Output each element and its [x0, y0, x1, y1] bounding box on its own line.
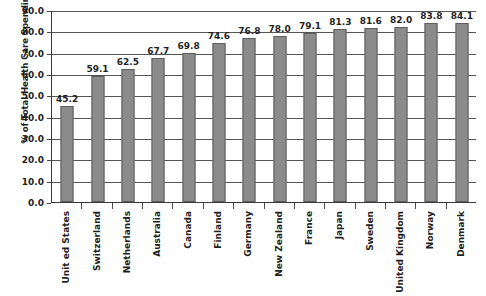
x-tick-mark: [415, 203, 416, 209]
bar[interactable]: [243, 38, 256, 202]
bar-slot: 78.0: [265, 11, 295, 202]
x-label-slot: Netherlands: [112, 203, 142, 296]
bar-slot: 76.8: [234, 11, 264, 202]
x-tick-mark: [446, 203, 447, 209]
y-tick-mark: [47, 160, 51, 161]
bar-value-label: 59.1: [86, 65, 108, 74]
x-label-slot: Sweden: [355, 203, 385, 296]
x-category-label: France: [305, 211, 314, 245]
y-tick-label: 20.0: [8, 156, 44, 165]
x-label-slot: Japan: [324, 203, 354, 296]
bar-value-label: 84.1: [451, 12, 473, 21]
y-tick-label: 70.0: [8, 49, 44, 58]
y-tick-mark: [47, 203, 51, 204]
bar-slot: 84.1: [447, 11, 477, 202]
bar-slot: 82.0: [386, 11, 416, 202]
bar-slot: 79.1: [295, 11, 325, 202]
y-tick-mark: [47, 54, 51, 55]
x-label-slot: Norway: [415, 203, 445, 296]
y-tick-mark: [47, 96, 51, 97]
bar-value-label: 69.8: [177, 42, 199, 51]
x-tick-mark: [324, 203, 325, 209]
bar[interactable]: [455, 23, 468, 202]
y-tick-label: 90.0: [8, 7, 44, 16]
x-label-slot: Denmark: [446, 203, 476, 296]
bar-value-label: 62.5: [117, 58, 139, 67]
y-tick-mark: [47, 182, 51, 183]
x-category-label: Canada: [183, 211, 192, 249]
bar-value-label: 79.1: [299, 22, 321, 31]
x-category-label: Australia: [153, 211, 162, 257]
x-tick-mark: [112, 203, 113, 209]
bar-slot: 81.6: [356, 11, 386, 202]
bar[interactable]: [182, 53, 195, 202]
y-tick-label: 10.0: [8, 177, 44, 186]
bar[interactable]: [425, 23, 438, 202]
x-tick-mark: [264, 203, 265, 209]
bar[interactable]: [395, 27, 408, 202]
y-tick-label: 80.0: [8, 28, 44, 37]
bar-slot: 59.1: [82, 11, 112, 202]
x-tick-mark: [172, 203, 173, 209]
bar-chart: % of Total Health Care Spending 0.010.02…: [0, 0, 486, 296]
y-tick-label: 60.0: [8, 71, 44, 80]
plot-area: 45.259.162.567.769.874.676.878.079.181.3…: [51, 11, 476, 203]
bar-slot: 69.8: [173, 11, 203, 202]
x-category-label: Japan: [335, 211, 344, 239]
y-tick-label: 40.0: [8, 113, 44, 122]
bar-slot: 81.3: [325, 11, 355, 202]
x-label-slot: United Kingdom: [385, 203, 415, 296]
bar[interactable]: [364, 28, 377, 202]
y-tick-label: 0.0: [8, 199, 44, 208]
x-category-label: Switzerland: [92, 211, 101, 271]
bar-value-label: 81.6: [360, 17, 382, 26]
bar[interactable]: [91, 76, 104, 202]
x-tick-mark: [81, 203, 82, 209]
x-category-label: United Kingdom: [396, 211, 405, 293]
x-category-label: Norway: [426, 211, 435, 249]
y-tick-mark: [47, 11, 51, 12]
x-category-label: Denmark: [456, 211, 465, 257]
y-tick-mark: [47, 75, 51, 76]
bar-value-label: 45.2: [56, 95, 78, 104]
y-axis-tick-labels: 0.010.020.030.040.050.060.070.080.090.0: [8, 0, 44, 296]
bar[interactable]: [273, 36, 286, 202]
x-tick-mark: [385, 203, 386, 209]
x-tick-mark: [203, 203, 204, 209]
bar[interactable]: [334, 29, 347, 202]
bar-slot: 45.2: [52, 11, 82, 202]
y-tick-label: 50.0: [8, 92, 44, 101]
bar[interactable]: [61, 106, 74, 202]
x-tick-mark: [355, 203, 356, 209]
bar-slot: 62.5: [113, 11, 143, 202]
bar-value-label: 67.7: [147, 47, 169, 56]
x-label-slot: Germany: [233, 203, 263, 296]
x-label-slot: New Zealand: [264, 203, 294, 296]
y-tick-mark: [47, 118, 51, 119]
bar[interactable]: [121, 69, 134, 202]
bar-slot: 83.8: [416, 11, 446, 202]
x-label-slot: Canada: [172, 203, 202, 296]
x-axis-category-labels: Unit ed StatesSwitzerlandNetherlandsAust…: [51, 203, 476, 296]
bar[interactable]: [212, 43, 225, 202]
bar-value-label: 81.3: [329, 18, 351, 27]
bar-value-label: 82.0: [390, 16, 412, 25]
bar[interactable]: [304, 33, 317, 202]
x-label-slot: Switzerland: [81, 203, 111, 296]
bar[interactable]: [152, 58, 165, 202]
bar-slot: 74.6: [204, 11, 234, 202]
bar-value-label: 76.8: [238, 27, 260, 36]
y-tick-label: 30.0: [8, 135, 44, 144]
x-label-slot: Unit ed States: [51, 203, 81, 296]
x-label-slot: Australia: [142, 203, 172, 296]
x-tick-mark: [142, 203, 143, 209]
x-category-label: Netherlands: [122, 211, 131, 273]
x-tick-mark: [294, 203, 295, 209]
bar-value-label: 83.8: [420, 12, 442, 21]
x-category-label: Germany: [244, 211, 253, 257]
y-tick-mark: [47, 32, 51, 33]
x-category-label: Sweden: [365, 211, 374, 251]
x-label-slot: Finland: [203, 203, 233, 296]
x-category-label: Unit ed States: [62, 211, 71, 284]
x-label-slot: France: [294, 203, 324, 296]
